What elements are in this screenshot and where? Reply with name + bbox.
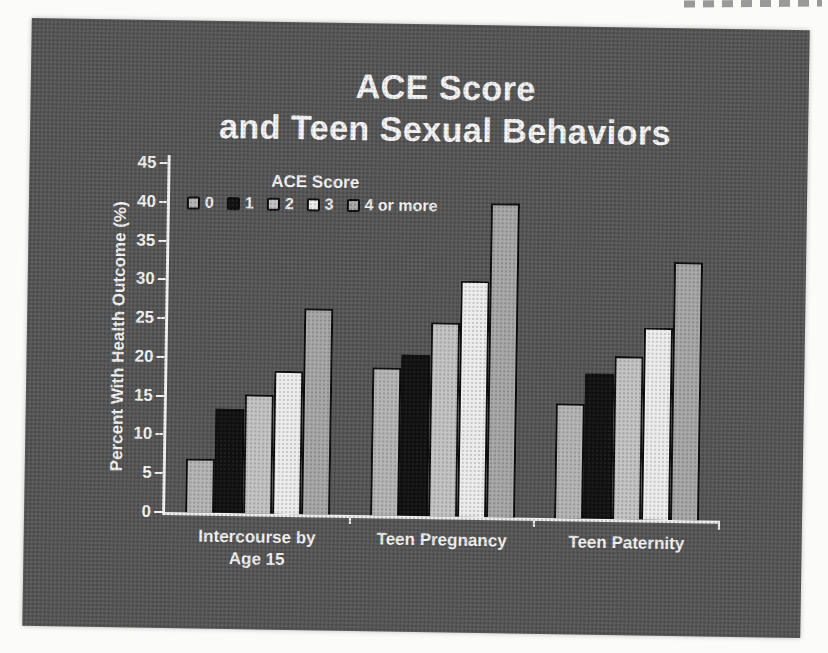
category-label-line: Teen Pregnancy <box>349 528 534 553</box>
bar-intercourse-by-age-15-ace-4-or-more <box>301 308 333 517</box>
y-tick-45 <box>160 162 168 164</box>
y-axis-line <box>162 155 171 515</box>
y-tick-0 <box>154 511 162 513</box>
bar-intercourse-by-age-15-ace-2 <box>243 395 274 516</box>
y-tick-label-25: 25 <box>116 307 154 328</box>
scanned-page: ACE Score and Teen Sexual Behaviors Perc… <box>0 0 828 653</box>
bar-teen-paternity-ace-2 <box>612 356 644 521</box>
bar-teen-pregnancy-ace-3 <box>457 281 490 519</box>
y-tick-10 <box>155 433 163 435</box>
y-tick-label-0: 0 <box>113 501 151 522</box>
bar-teen-pregnancy-ace-0 <box>370 367 401 518</box>
y-tick-5 <box>155 472 163 474</box>
y-tick-label-15: 15 <box>115 385 153 406</box>
bar-teen-pregnancy-ace-4-or-more <box>486 203 520 520</box>
scan-artifact-top-edge <box>684 0 822 7</box>
category-label-line: Intercourse by <box>165 525 350 550</box>
y-tick-20 <box>156 356 164 358</box>
y-tick-35 <box>158 239 166 241</box>
y-tick-label-30: 30 <box>117 269 155 290</box>
bar-teen-paternity-ace-1 <box>583 374 614 521</box>
bar-intercourse-by-age-15-ace-0 <box>185 458 215 515</box>
y-tick-25 <box>157 317 165 319</box>
bar-teen-pregnancy-ace-1 <box>399 354 431 518</box>
y-tick-label-45: 45 <box>118 152 156 173</box>
x-axis-boundary-tick-2 <box>533 519 535 527</box>
y-tick-label-20: 20 <box>115 346 153 367</box>
plot-area: 051015202530354045Intercourse byAge 15Te… <box>22 18 809 638</box>
category-label-line: Teen Paternity <box>534 531 719 556</box>
y-tick-label-35: 35 <box>117 230 155 251</box>
y-tick-label-10: 10 <box>114 424 152 445</box>
bar-teen-paternity-ace-3 <box>641 328 673 522</box>
bar-intercourse-by-age-15-ace-3 <box>272 371 303 516</box>
y-tick-label-40: 40 <box>118 191 156 212</box>
x-axis-boundary-tick-1 <box>349 516 351 524</box>
slide: ACE Score and Teen Sexual Behaviors Perc… <box>22 18 809 638</box>
bar-intercourse-by-age-15-ace-1 <box>214 409 245 515</box>
category-label-line: Age 15 <box>164 547 349 572</box>
y-tick-30 <box>158 278 166 280</box>
category-label-2: Teen Pregnancy <box>349 528 534 553</box>
category-label-1: Intercourse byAge 15 <box>164 525 349 572</box>
y-tick-label-5: 5 <box>114 462 152 483</box>
y-tick-40 <box>159 201 167 203</box>
bar-teen-paternity-ace-4-or-more <box>670 262 703 523</box>
bar-teen-paternity-ace-0 <box>554 403 585 520</box>
bar-teen-pregnancy-ace-2 <box>428 322 460 518</box>
x-axis-boundary-tick-3 <box>718 522 720 530</box>
y-tick-15 <box>156 395 164 397</box>
category-label-3: Teen Paternity <box>534 531 719 556</box>
